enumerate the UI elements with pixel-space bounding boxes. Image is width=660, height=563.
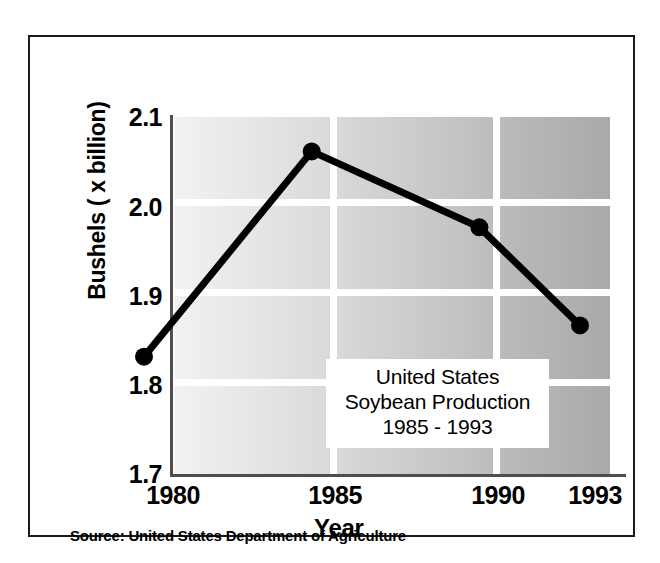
- x-axis-line: [170, 474, 626, 477]
- x-tick-label: 1990: [471, 483, 525, 508]
- y-tick-label: 1.8: [92, 373, 162, 398]
- source-note: Source: United States Department of Agri…: [70, 527, 406, 544]
- chart-title-line-2: Soybean Production: [326, 389, 549, 414]
- y-axis-title: Bushels ( x billion): [84, 71, 111, 331]
- gridline-horizontal-2-0: [174, 199, 610, 206]
- x-tick-label: 1985: [308, 483, 362, 508]
- x-tick-label: 1980: [146, 483, 200, 508]
- chart-title-line-1: United States: [326, 364, 549, 389]
- x-tick-label: 1993: [568, 483, 622, 508]
- chart-title-line-3: 1985 - 1993: [326, 414, 549, 439]
- y-axis-line: [170, 115, 173, 476]
- x-axis-tick-labels: 1980 1985 1990 1993: [30, 483, 633, 517]
- gridline-horizontal-1-9: [174, 289, 610, 296]
- chart-title-box: United States Soybean Production 1985 - …: [326, 359, 549, 448]
- chart-figure-frame: 2.1 2.0 1.9 1.8 1.7 1980 1985 1990 1993 …: [28, 35, 635, 537]
